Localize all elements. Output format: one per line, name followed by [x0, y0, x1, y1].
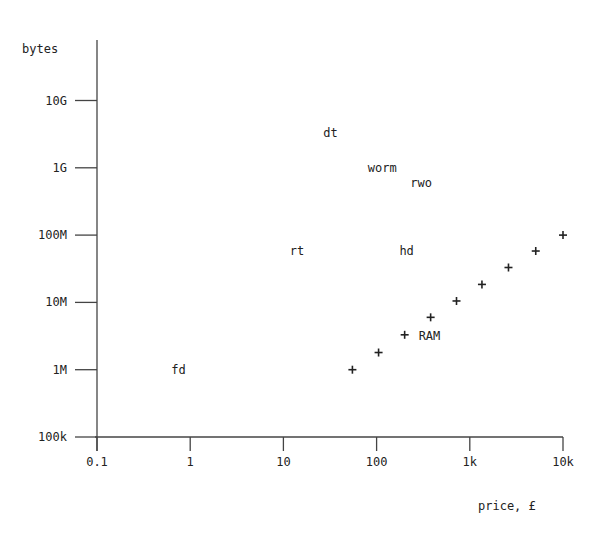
point-label: rwo: [410, 176, 432, 190]
point-label: worm: [368, 161, 397, 175]
y-tick-label: 100M: [38, 228, 67, 242]
point-label: rt: [290, 244, 304, 258]
y-tick-label: 100k: [38, 430, 68, 444]
point-label: hd: [399, 244, 413, 258]
y-tick-label: 1M: [53, 363, 67, 377]
chart-canvas: 100k1M10M100M1G10G 0.11101001k10k bytes …: [0, 0, 600, 539]
x-tick-label: 0.1: [86, 455, 108, 469]
point-annotations: fdrtdtwormrwohd: [171, 126, 432, 377]
x-axis-label: price, £: [478, 499, 536, 513]
scatter-chart: 100k1M10M100M1G10G 0.11101001k10k bytes …: [0, 0, 600, 539]
y-tick-label: 10M: [45, 295, 67, 309]
point-label: dt: [323, 126, 337, 140]
x-tick-label: 10: [276, 455, 290, 469]
point-label: fd: [171, 363, 185, 377]
y-tick-label: 10G: [45, 94, 67, 108]
data-series: RAM: [348, 231, 567, 374]
x-tick-label: 1k: [463, 455, 478, 469]
x-axis-ticks: 0.11101001k10k: [86, 437, 574, 469]
y-tick-label: 1G: [53, 161, 67, 175]
series-label: RAM: [419, 329, 441, 343]
axes: [95, 40, 563, 451]
y-axis-ticks: 100k1M10M100M1G10G: [38, 94, 97, 445]
x-tick-label: 10k: [552, 455, 574, 469]
x-tick-label: 100: [366, 455, 388, 469]
y-axis-label: bytes: [22, 42, 58, 56]
x-tick-label: 1: [187, 455, 194, 469]
